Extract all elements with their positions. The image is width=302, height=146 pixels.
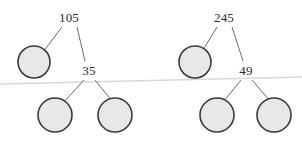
edge-right-internal-to-leaf3 [252, 80, 270, 101]
right-tree-leaf-3[interactable] [257, 98, 291, 132]
left-tree-internal-label: 35 [82, 63, 95, 79]
edge-left-internal-to-leaf3 [95, 80, 112, 101]
left-tree-leaf-3[interactable] [98, 98, 132, 132]
edge-left-internal-to-leaf2 [63, 80, 84, 103]
diagram-vector-layer [0, 0, 302, 146]
left-tree-leaf-2[interactable] [38, 98, 72, 132]
right-tree-nodes [179, 46, 291, 132]
horizon-line [0, 77, 302, 84]
left-tree-nodes [18, 46, 132, 132]
left-tree-leaf-1[interactable] [18, 46, 50, 78]
right-tree-edges [203, 27, 270, 101]
edge-right-root-to-internal [232, 27, 243, 61]
right-tree-leaf-1[interactable] [179, 46, 211, 78]
left-tree-edges [43, 27, 112, 103]
right-tree-internal-label: 49 [239, 63, 252, 79]
edge-right-root-to-leaf1 [203, 27, 217, 50]
edge-left-root-to-internal [77, 27, 85, 61]
edge-right-internal-to-leaf2 [224, 80, 241, 101]
right-tree-leaf-2[interactable] [200, 98, 234, 132]
right-tree-root-label: 245 [214, 10, 234, 26]
edge-left-root-to-leaf1 [43, 27, 62, 52]
left-tree-root-label: 105 [59, 10, 79, 26]
diagram-canvas: 105 35 245 49 [0, 0, 302, 146]
